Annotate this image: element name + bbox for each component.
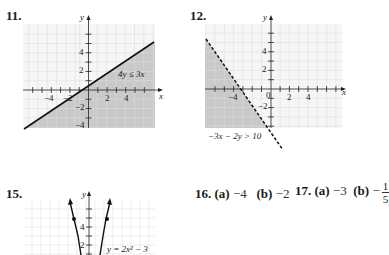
axis-label-y: y [80, 12, 84, 22]
part-b-sign: − [372, 183, 379, 198]
y-tick-label: 2 [262, 64, 267, 74]
axis-label-x: x [342, 87, 346, 97]
denominator: 5 [382, 193, 389, 205]
x-tick-label: −4 [228, 92, 238, 102]
x-tick-label: 0 [266, 90, 271, 100]
y-tick-label: 4 [262, 46, 267, 56]
graph-12 [205, 15, 346, 150]
inequality-label: 4y ≤ 3x [118, 69, 144, 79]
problem-16-number: 16. [195, 186, 211, 201]
part-a-value: −4 [233, 186, 247, 201]
point-marker [72, 217, 76, 221]
numerator: 1 [382, 180, 389, 193]
part-b-value: −2 [276, 186, 290, 201]
y-tick-label: 4 [80, 222, 85, 232]
part-b-label: (b) [353, 183, 369, 198]
axis-label-y: y [263, 12, 267, 22]
x-tick-label: −4 [44, 93, 54, 103]
inequality-label: −3x − 2y > 10 [208, 131, 261, 141]
equation-label: y = 2x² − 3 [107, 244, 148, 254]
part-a-value: −3 [333, 183, 347, 198]
axis-label-x: x [159, 91, 163, 101]
y-tick-label: 4 [79, 47, 84, 57]
point-marker [105, 217, 109, 221]
y-tick-label: 2 [79, 65, 84, 75]
x-tick-label: 4 [124, 93, 129, 103]
y-tick-label: 2 [80, 240, 85, 250]
x-tick-label: 2 [287, 92, 292, 102]
y-tick-label: −4 [75, 120, 85, 130]
part-a-label: (a) [215, 186, 230, 201]
y-tick-label: −2 [258, 101, 268, 111]
x-tick-label: −2 [63, 93, 73, 103]
fraction: 15 [382, 180, 389, 205]
axis-label-y: y [82, 189, 86, 199]
x-tick-label: 2 [105, 93, 110, 103]
part-a-label: (a) [315, 183, 330, 198]
answer-16: 16. (a) −4 (b) −2 [195, 186, 290, 202]
x-tick-label: 4 [306, 92, 311, 102]
y-tick-label: −2 [75, 102, 85, 112]
problem-17-number: 17. [295, 183, 311, 198]
part-b-label: (b) [257, 186, 273, 201]
answer-17: 17. (a) −3 (b) −15 [295, 180, 389, 205]
